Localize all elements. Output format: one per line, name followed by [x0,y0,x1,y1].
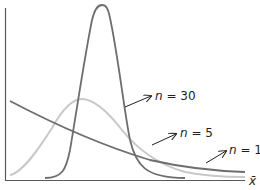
arrow-n5 [152,134,176,145]
arrow-n1 [206,151,226,163]
label-n1-var: n [229,143,237,157]
x-axis-label: x̄ [248,174,257,188]
label-n1: n = 1 [229,143,260,157]
label-n1-eq: = 1 [237,143,260,157]
sampling-distribution-chart: n = 30 n = 5 n = 1 x̄ [0,0,260,190]
label-n5: n = 5 [180,126,213,140]
arrow-n30 [125,96,151,107]
label-n30-var: n [155,89,163,103]
label-n30-eq: = 30 [163,89,196,103]
label-n5-var: n [180,126,188,140]
label-n30: n = 30 [155,89,196,103]
label-n5-eq: = 5 [188,126,213,140]
